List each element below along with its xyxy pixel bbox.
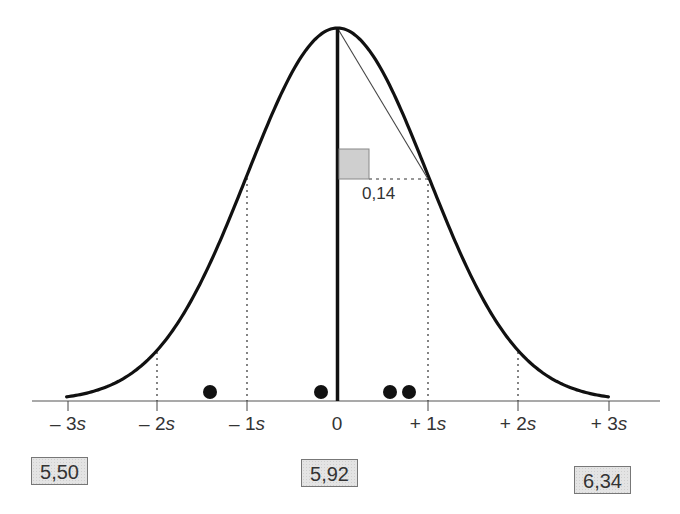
axis-ticks: [68, 401, 609, 411]
value-box-low: 5,50: [31, 457, 88, 485]
tick-label-plus-1s: + 1s: [410, 413, 446, 435]
sample-points: [203, 385, 416, 399]
tick-label-zero: 0: [332, 413, 343, 435]
tick-label-plus-2s: + 2s: [500, 413, 536, 435]
value-box-mean: 5,92: [301, 459, 358, 487]
tick-label-minus-1s: – 1s: [229, 413, 265, 435]
slope-square: [339, 149, 369, 179]
tick-label-minus-3s: – 3s: [50, 413, 86, 435]
tick-label-minus-2s: – 2s: [139, 413, 175, 435]
tick-label-plus-3s: + 3s: [591, 413, 627, 435]
normal-distribution-plot: [0, 0, 680, 514]
value-box-high: 6,34: [574, 466, 631, 494]
slope-value-label: 0,14: [362, 184, 395, 204]
